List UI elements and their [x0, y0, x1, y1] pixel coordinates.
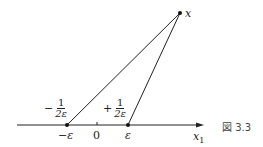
label-plus-eps: ε — [125, 130, 131, 141]
weight-minus-sign: − — [44, 102, 53, 115]
weight-minus-den: 2ε — [55, 109, 67, 119]
figure-caption: 図 3.3 — [222, 119, 251, 134]
weight-plus: + 1 2ε — [103, 98, 126, 119]
label-minus-eps: −ε — [58, 130, 73, 141]
weight-plus-den: 2ε — [114, 109, 126, 119]
weight-plus-sign: + — [103, 102, 112, 115]
point-minus-eps — [65, 123, 69, 127]
axis-label-sub: 1 — [199, 136, 204, 145]
line-plus-eps-to-x — [128, 13, 180, 125]
label-x: x — [185, 8, 191, 19]
axis-label: x1 — [193, 131, 204, 145]
axis-arrow-icon — [196, 123, 204, 128]
point-plus-eps — [126, 123, 130, 127]
label-zero: 0 — [93, 130, 100, 141]
point-x — [178, 11, 182, 15]
weight-minus: − 1 2ε — [44, 98, 67, 119]
